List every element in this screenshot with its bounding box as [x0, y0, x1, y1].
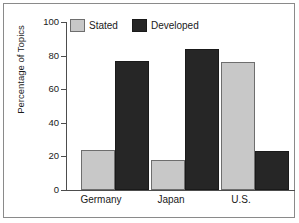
bar-japan-stated — [151, 160, 185, 190]
bar-japan-developed — [185, 49, 219, 190]
legend-label-developed: Developed — [151, 21, 199, 31]
bar-us-stated — [221, 62, 255, 190]
y-tick-label-0: 0 — [33, 185, 59, 195]
y-tick-label-100: 100 — [33, 17, 59, 27]
x-tick-label-japan: Japan — [136, 194, 206, 205]
legend-swatch-developed — [132, 19, 147, 32]
y-tick-100: 100 — [4, 17, 59, 27]
y-tick-60: 60 — [4, 84, 59, 94]
legend-entry-stated: Stated — [70, 19, 118, 32]
legend-swatch-stated — [70, 19, 85, 32]
y-tick-80: 80 — [4, 51, 59, 61]
plot-area — [66, 22, 294, 190]
bar-us-developed — [255, 151, 289, 190]
y-tick-label-80: 80 — [33, 51, 59, 61]
x-tick-label-germany: Germany — [66, 194, 136, 205]
legend-label-stated: Stated — [89, 21, 118, 31]
figure: Percentage of Topics 0 20 40 60 80 100 — [0, 0, 299, 223]
x-axis-line — [66, 190, 295, 191]
x-tick-label-us: U.S. — [206, 194, 276, 205]
bar-germany-developed — [115, 61, 149, 190]
y-tick-label-40: 40 — [33, 118, 59, 128]
y-tick-20: 20 — [4, 151, 59, 161]
figure-border: Percentage of Topics 0 20 40 60 80 100 — [3, 3, 295, 218]
y-tick-40: 40 — [4, 118, 59, 128]
y-tick-0: 0 — [4, 185, 59, 195]
legend: Stated Developed — [70, 19, 199, 32]
y-tick-label-60: 60 — [33, 84, 59, 94]
y-tick-label-20: 20 — [33, 151, 59, 161]
legend-entry-developed: Developed — [132, 19, 199, 32]
bar-germany-stated — [81, 150, 115, 190]
